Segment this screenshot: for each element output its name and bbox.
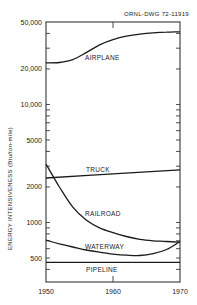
label-waterway: WATERWAY xyxy=(85,243,124,250)
y-axis-label: ENERGY INTENSIVENESS (Btu/ton-mile) xyxy=(7,127,13,250)
label-airplane: AIRPLANE xyxy=(85,54,120,61)
y-axis-tick-labels: 50010002000500010,00020,00050,000 xyxy=(21,19,43,262)
x-tick-label: 1960 xyxy=(105,288,121,295)
label-truck: TRUCK xyxy=(86,166,110,173)
label-pipeline: PIPELINE xyxy=(86,266,118,273)
y-tick-label: 500 xyxy=(30,255,42,262)
y-axis-ticks xyxy=(46,33,180,269)
y-tick-label: 2000 xyxy=(26,183,42,190)
x-axis-tick-labels: 195019601970 xyxy=(38,288,188,295)
series-truck-line xyxy=(46,170,180,178)
series-lines xyxy=(46,32,180,262)
energy-intensiveness-chart: ORNL-DWG 72-11919 50010002000500010,0002… xyxy=(0,0,197,305)
y-tick-label: 1000 xyxy=(26,219,42,226)
series-railroad-line xyxy=(46,164,180,242)
y-tick-label: 10,000 xyxy=(21,101,43,108)
label-railroad: RAILROAD xyxy=(85,210,121,217)
x-tick-label: 1970 xyxy=(172,288,188,295)
y-tick-label: 5000 xyxy=(26,137,42,144)
drawing-number: ORNL-DWG 72-11919 xyxy=(124,11,189,17)
x-tick-label: 1950 xyxy=(38,288,54,295)
y-tick-label: 50,000 xyxy=(21,19,43,26)
y-tick-label: 20,000 xyxy=(21,65,43,72)
